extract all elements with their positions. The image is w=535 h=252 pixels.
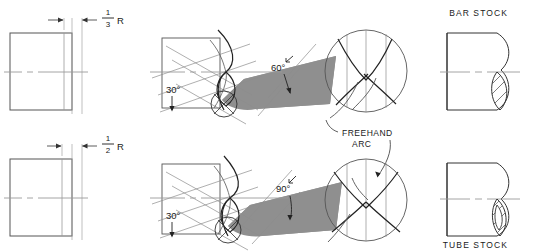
fraction-denominator: 3 <box>106 20 111 29</box>
tube-stock-label: TUBE STOCK <box>443 240 508 250</box>
freehand-arc-line2: ARC <box>352 139 371 149</box>
technical-drawing-sheet: 1 3 R <box>0 0 535 252</box>
fraction-denominator: 2 <box>106 146 111 155</box>
freehand-arc-line1: FREEHAND <box>342 128 393 138</box>
fraction-numerator: 1 <box>106 8 111 17</box>
radius-suffix: R <box>117 141 124 152</box>
angle-60-text: 60° <box>271 62 286 73</box>
angle-90-text: 90° <box>276 183 291 194</box>
angle-30-text: 30° <box>166 210 181 221</box>
angle-30-text: 30° <box>166 84 181 95</box>
bar-stock-label: BAR STOCK <box>449 8 508 18</box>
fraction-numerator: 1 <box>106 134 111 143</box>
radius-suffix: R <box>117 15 124 26</box>
